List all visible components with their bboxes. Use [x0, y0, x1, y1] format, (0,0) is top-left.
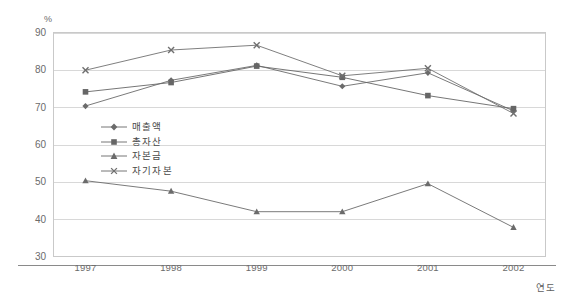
y-tick-70: 70: [16, 101, 46, 112]
chart-legend: 매출액 총자산 자본금 자기자본: [101, 120, 173, 178]
legend-marker-triangle-icon: [101, 150, 127, 162]
line-chart: % 90 80 70 60 50 40 30 19971998199920002…: [0, 0, 562, 298]
x-tick-2000: 2000: [331, 262, 353, 273]
legend-item-자본금: 자본금: [101, 149, 173, 164]
plot-area: [0, 0, 562, 298]
y-tick-30: 30: [16, 251, 46, 262]
y-tick-40: 40: [16, 213, 46, 224]
x-axis-title: 연도: [536, 280, 556, 294]
legend-item-매출액: 매출액: [101, 120, 173, 135]
legend-label-3: 자기자본: [132, 164, 173, 179]
data-point-총자산-2001: [425, 93, 431, 99]
data-point-자본금-1997: [82, 177, 88, 183]
data-point-총자산-1999: [254, 63, 260, 69]
y-tick-90: 90: [16, 27, 46, 38]
legend-marker-x-icon: [101, 165, 127, 177]
legend-item-총자산: 총자산: [101, 135, 173, 150]
series-자본금: [82, 177, 516, 230]
x-tick-2002: 2002: [503, 262, 525, 273]
data-point-매출액-2000: [339, 83, 345, 89]
legend-label-1: 총자산: [132, 135, 163, 150]
data-point-자본금-2002: [510, 224, 516, 230]
x-tick-1999: 1999: [246, 262, 268, 273]
legend-marker-square-icon: [101, 136, 127, 148]
data-point-매출액-1997: [82, 103, 88, 109]
series-line-2: [86, 181, 514, 228]
x-tick-2001: 2001: [417, 262, 439, 273]
x-tick-1997: 1997: [75, 262, 97, 273]
y-tick-60: 60: [16, 139, 46, 150]
series-line-3: [86, 45, 514, 113]
series-자기자본: [83, 42, 517, 116]
y-axis-tick-labels: 90 80 70 60 50 40 30: [16, 0, 46, 298]
series-line-1: [86, 66, 514, 109]
data-point-총자산-1998: [168, 80, 174, 86]
legend-item-자기자본: 자기자본: [101, 164, 173, 179]
data-point-총자산-1997: [83, 89, 89, 95]
x-tick-1998: 1998: [160, 262, 182, 273]
legend-label-0: 매출액: [132, 120, 163, 135]
legend-label-2: 자본금: [132, 149, 163, 164]
data-point-자본금-2001: [425, 180, 431, 186]
y-tick-80: 80: [16, 64, 46, 75]
legend-marker-diamond-icon: [101, 121, 127, 133]
series-line-0: [86, 65, 514, 111]
y-tick-50: 50: [16, 176, 46, 187]
